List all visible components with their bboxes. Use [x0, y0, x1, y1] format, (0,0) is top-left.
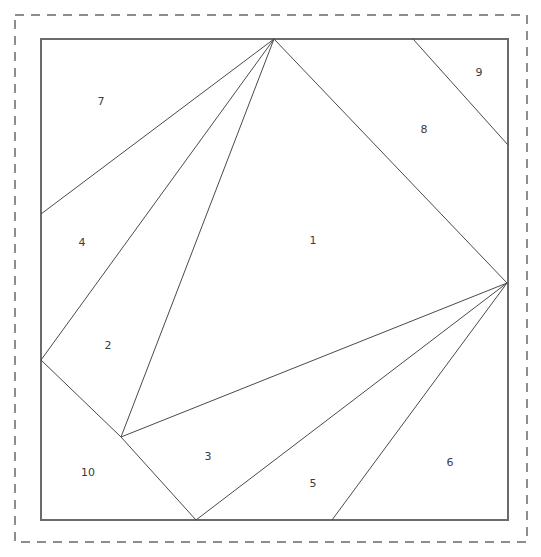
interior-low-to-bottom-left-v [121, 437, 196, 520]
solid-square-boundary [41, 39, 508, 520]
right-hub-to-bottom-left-v [196, 283, 507, 520]
right-hub-to-bottom-mid-v [332, 283, 507, 520]
region-label-1: 1 [310, 234, 317, 247]
region-label-6: 6 [447, 456, 454, 469]
diagram-canvas: 12345678910 [0, 0, 541, 557]
apex-to-interior-low [121, 39, 274, 437]
region-label-4: 4 [79, 236, 86, 249]
region-label-3: 3 [205, 450, 212, 463]
right-hub-to-interior-low [121, 283, 507, 437]
region-label-5: 5 [310, 477, 317, 490]
apex-to-left-edge-mid [41, 39, 274, 360]
partition-segments-group [41, 39, 508, 520]
region-labels-group: 12345678910 [79, 66, 483, 490]
region-label-2: 2 [105, 339, 112, 352]
region-label-9: 9 [476, 66, 483, 79]
region-label-8: 8 [421, 123, 428, 136]
region-label-7: 7 [98, 95, 105, 108]
apex-to-left-edge-upper [41, 39, 274, 214]
polygon-partition-figure: 12345678910 [0, 0, 541, 557]
region-label-10: 10 [81, 466, 95, 479]
left-edge-mid-to-interior-low [41, 360, 121, 437]
